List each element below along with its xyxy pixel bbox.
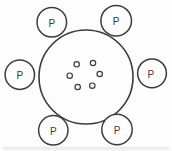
satellite-label: P: [147, 69, 154, 80]
satellite-bottom-left: P: [39, 116, 68, 145]
inner-dot: [75, 84, 80, 89]
satellite-right: P: [138, 59, 167, 88]
satellite-bottom-right: P: [102, 114, 132, 144]
diagram-canvas: P P P P P P: [0, 0, 172, 151]
scan-artifact-line: [3, 148, 169, 150]
satellite-label: P: [113, 16, 120, 27]
satellite-label: P: [48, 18, 55, 29]
inner-dot: [97, 71, 102, 76]
satellite-top-left: P: [37, 7, 67, 37]
inner-dot: [90, 60, 95, 65]
satellite-label: P: [16, 70, 23, 81]
satellite-label: P: [50, 126, 57, 137]
inner-dot: [90, 83, 95, 88]
satellite-left: P: [5, 60, 34, 89]
inner-dot: [67, 73, 72, 78]
satellite-top-right: P: [101, 5, 132, 36]
inner-dot: [74, 62, 79, 67]
cell-diagram: P P P P P P: [0, 0, 172, 151]
central-circle: [39, 30, 133, 124]
satellite-label: P: [114, 125, 121, 136]
